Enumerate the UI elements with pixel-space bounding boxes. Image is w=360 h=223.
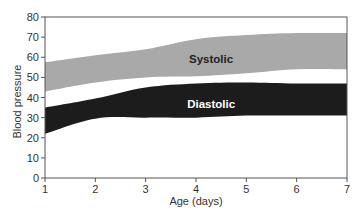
band-labels-layer: SystolicDiastolic [187, 53, 236, 109]
x-tick-label: 4 [193, 183, 199, 195]
x-tick-label: 3 [143, 183, 149, 195]
bands-layer [45, 33, 347, 134]
y-tick-label: 80 [27, 11, 39, 23]
y-tick-label: 70 [27, 31, 39, 43]
blood-pressure-chart: SystolicDiastolic 01020304050607080 1234… [0, 0, 360, 223]
x-axis-title: Age (days) [169, 195, 222, 207]
y-tick-label: 40 [27, 92, 39, 104]
x-tick-label: 5 [243, 183, 249, 195]
chart-canvas: SystolicDiastolic 01020304050607080 1234… [0, 0, 360, 223]
y-axis-title: Blood pressure [11, 65, 23, 139]
y-tick-label: 0 [33, 172, 39, 184]
systolic-label: Systolic [189, 53, 234, 65]
y-tick-label: 10 [27, 152, 39, 164]
y-tick-label: 20 [27, 132, 39, 144]
x-tick-label: 1 [42, 183, 48, 195]
x-tick-label: 2 [92, 183, 98, 195]
y-tick-label: 30 [27, 112, 39, 124]
y-axis-ticks: 01020304050607080 [27, 11, 45, 184]
x-axis-ticks: 1234567 [42, 178, 350, 195]
x-tick-label: 6 [294, 183, 300, 195]
y-tick-label: 50 [27, 71, 39, 83]
diastolic-label: Diastolic [187, 98, 236, 110]
x-tick-label: 7 [344, 183, 350, 195]
y-tick-label: 60 [27, 51, 39, 63]
